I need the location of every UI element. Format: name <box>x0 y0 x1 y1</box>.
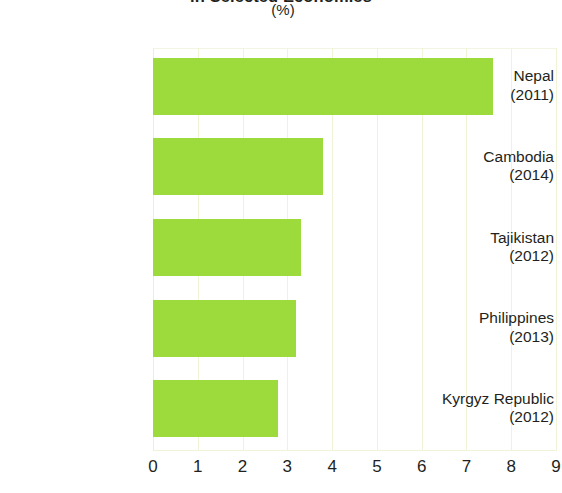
x-tick-label-6: 6 <box>402 457 442 477</box>
category-label: Nepal(2011) <box>412 67 562 104</box>
bar <box>153 138 323 195</box>
bar <box>153 380 278 437</box>
chart-header: in Selected Economies (%) <box>0 0 562 6</box>
x-tick-label-7: 7 <box>446 457 486 477</box>
x-tick-label-3: 3 <box>267 457 307 477</box>
category-label: Philippines(2013) <box>412 309 562 346</box>
x-tick-label-8: 8 <box>491 457 531 477</box>
x-tick-label-2: 2 <box>223 457 263 477</box>
x-tick-label-9: 9 <box>536 457 562 477</box>
category-label-year: (2011) <box>412 86 554 105</box>
chart-subtitle: (%) <box>0 0 562 20</box>
category-label-name: Philippines <box>412 309 554 328</box>
category-label: Kyrgyz Republic(2012) <box>412 390 562 427</box>
category-label-name: Kyrgyz Republic <box>412 390 554 409</box>
category-label: Cambodia(2014) <box>412 148 562 185</box>
x-tick-label-0: 0 <box>133 457 173 477</box>
category-label-name: Cambodia <box>412 148 554 167</box>
x-tick-label-1: 1 <box>178 457 218 477</box>
category-label-year: (2012) <box>412 408 554 427</box>
x-tick-label-4: 4 <box>312 457 352 477</box>
category-label-name: Tajikistan <box>412 229 554 248</box>
category-label-year: (2012) <box>412 247 554 266</box>
bar <box>153 219 301 276</box>
plot-bottom-rule <box>153 450 556 451</box>
chart-figure: in Selected Economies (%) Nepal(2011)Cam… <box>0 0 562 493</box>
bar <box>153 300 296 357</box>
category-label-year: (2013) <box>412 328 554 347</box>
category-label-name: Nepal <box>412 67 554 86</box>
x-tick-label-5: 5 <box>357 457 397 477</box>
plot-top-rule <box>153 48 556 49</box>
category-label-year: (2014) <box>412 166 554 185</box>
category-label: Tajikistan(2012) <box>412 229 562 266</box>
